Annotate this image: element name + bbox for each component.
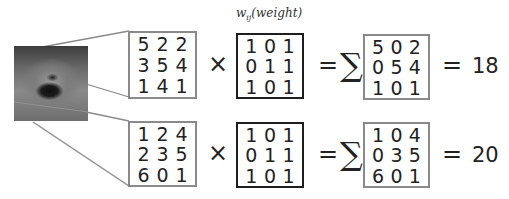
sum-symbol-2: ∑ [340, 138, 363, 170]
equals-operator-1a: = [318, 53, 338, 77]
equals-operator-2a: = [318, 142, 338, 166]
sum-result-2: 20 [472, 145, 499, 166]
multiply-operator-1: × [208, 52, 228, 76]
weight-label: wij(weight) [236, 6, 302, 22]
weight-symbol: w [236, 6, 246, 20]
cell: 2 [153, 124, 172, 144]
multiply-operator-2: × [208, 141, 228, 165]
cell: 1 [279, 56, 298, 76]
cell: 0 [242, 145, 261, 165]
cell: 6 [369, 166, 387, 186]
cell: 1 [279, 125, 298, 145]
cell: 1 [242, 36, 261, 56]
cell: 1 [406, 166, 424, 186]
cell: 5 [153, 55, 172, 76]
cell: 5 [369, 37, 387, 57]
weight-matrix-2: 1 0 1 0 1 1 1 0 1 [236, 122, 304, 188]
cell: 5 [172, 144, 191, 164]
weight-text: (weight) [251, 6, 302, 20]
cell: 1 [172, 165, 191, 185]
cell: 0 [369, 145, 387, 165]
lower-patch-marker [14, 46, 88, 121]
input-patch-1: 5 2 2 3 5 4 1 4 1 [128, 31, 197, 99]
cell: 2 [406, 37, 424, 57]
cell: 5 [387, 57, 405, 77]
equals-operator-1b: = [442, 53, 462, 77]
weight-matrix-1: 1 0 1 0 1 1 1 0 1 [236, 33, 304, 99]
cell: 1 [279, 166, 298, 186]
cell: 0 [261, 77, 280, 97]
sum-symbol-1: ∑ [340, 49, 363, 81]
cell: 1 [406, 78, 424, 98]
cell: 1 [279, 36, 298, 56]
cell: 2 [134, 144, 153, 164]
cell: 2 [153, 34, 172, 55]
cell: 1 [279, 145, 298, 165]
cell: 0 [387, 166, 405, 186]
cell: 4 [172, 124, 191, 144]
cell: 3 [134, 55, 153, 76]
cell: 4 [153, 76, 172, 97]
cell: 0 [261, 166, 280, 186]
cell: 1 [369, 125, 387, 145]
cell: 3 [153, 144, 172, 164]
cell: 1 [134, 124, 153, 144]
cell: 0 [387, 78, 405, 98]
product-matrix-1: 5 0 2 0 5 4 1 0 1 [363, 34, 430, 100]
product-matrix-2: 1 0 4 0 3 5 6 0 1 [363, 122, 430, 188]
cell: 1 [242, 77, 261, 97]
cell: 4 [406, 57, 424, 77]
cell: 5 [406, 145, 424, 165]
cell: 1 [242, 166, 261, 186]
cell: 2 [172, 34, 191, 55]
cell: 1 [369, 78, 387, 98]
cell: 4 [406, 125, 424, 145]
cell: 1 [172, 76, 191, 97]
cell: 6 [134, 165, 153, 185]
cell: 0 [387, 125, 405, 145]
cell: 0 [153, 165, 172, 185]
cell: 4 [172, 55, 191, 76]
cell: 0 [242, 56, 261, 76]
cell: 1 [261, 56, 280, 76]
cell: 1 [279, 77, 298, 97]
cell: 1 [261, 145, 280, 165]
input-patch-2: 1 2 4 2 3 5 6 0 1 [128, 121, 197, 187]
cell: 1 [242, 125, 261, 145]
cell: 0 [369, 57, 387, 77]
equals-operator-2b: = [442, 142, 462, 166]
cell: 1 [134, 76, 153, 97]
cell: 5 [134, 34, 153, 55]
cell: 0 [387, 37, 405, 57]
cell: 0 [261, 36, 280, 56]
cell: 0 [261, 125, 280, 145]
cell: 3 [387, 145, 405, 165]
sum-result-1: 18 [472, 56, 499, 77]
